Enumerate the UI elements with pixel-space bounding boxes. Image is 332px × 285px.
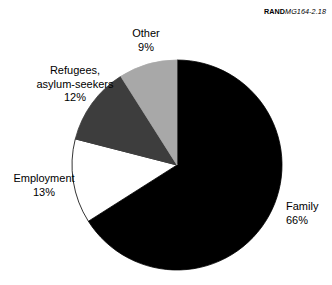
- pie-label-other: Other 9%: [107, 27, 185, 54]
- pie-label-other-value: 9%: [107, 41, 185, 55]
- pie-label-refugees: Refugees, asylum-seekers 12%: [20, 64, 130, 105]
- pie-chart-figure: RANDMG164-2.18 Other 9% Refugees, asylum…: [0, 0, 332, 285]
- pie-label-refugees-value: 12%: [20, 91, 130, 105]
- pie-label-family: Family 66%: [286, 200, 332, 227]
- pie-label-employment-name: Employment: [13, 172, 74, 184]
- pie-label-refugees-name-line2: asylum-seekers: [20, 78, 130, 92]
- pie-label-family-value: 66%: [286, 214, 332, 228]
- pie-label-employment-value: 13%: [3, 186, 85, 200]
- pie-label-refugees-name-line1: Refugees,: [50, 64, 100, 76]
- pie-label-employment: Employment 13%: [3, 172, 85, 199]
- pie-label-other-name: Other: [132, 27, 160, 39]
- pie-label-family-name: Family: [286, 200, 318, 212]
